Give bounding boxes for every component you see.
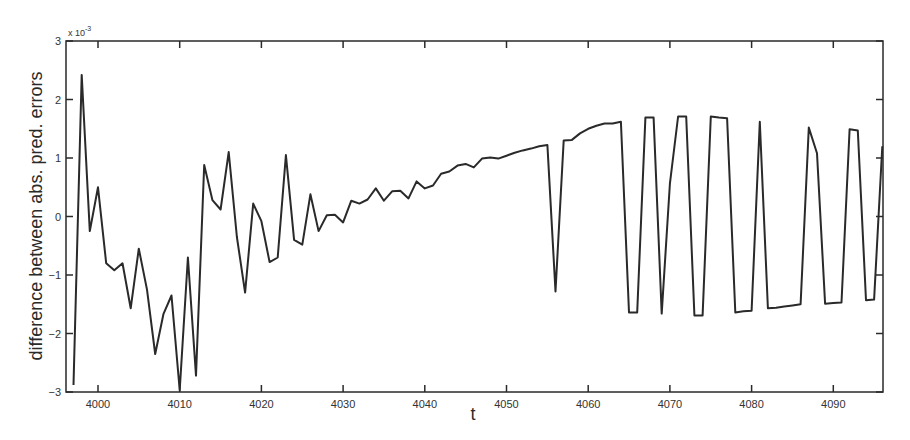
plot-border — [66, 41, 883, 392]
x-tick-label: 4090 — [821, 398, 845, 410]
x-tick-label: 4020 — [249, 398, 273, 410]
y-tick-label: −2 — [48, 328, 61, 340]
y-scale-exponent: x 10-3 — [68, 25, 91, 38]
y-tick-label: 3 — [55, 35, 61, 47]
x-tick-label: 4010 — [167, 398, 191, 410]
plot-frame — [66, 41, 883, 392]
x-tick-label: 4080 — [739, 398, 763, 410]
y-tick-label: −3 — [48, 386, 61, 398]
x-axis-label: t — [470, 404, 475, 424]
y-tick-label: 0 — [55, 211, 61, 223]
y-axis-label: difference between abs. pred. errors — [26, 72, 46, 361]
y-tick-label: 1 — [55, 152, 61, 164]
data-series-line — [74, 75, 883, 390]
x-tick-label: 4000 — [86, 398, 110, 410]
x-tick-label: 4040 — [413, 398, 437, 410]
x-tick-label: 4070 — [658, 398, 682, 410]
y-tick-label: 2 — [55, 94, 61, 106]
x-tick-label: 4050 — [494, 398, 518, 410]
tick-labels: 4000401040204030404040504060407040804090… — [48, 35, 845, 410]
y-tick-label: −1 — [48, 269, 61, 281]
x-tick-label: 4060 — [576, 398, 600, 410]
x-tick-label: 4030 — [331, 398, 355, 410]
line-chart: 4000401040204030404040504060407040804090… — [0, 0, 910, 440]
axis-ticks — [66, 41, 883, 392]
